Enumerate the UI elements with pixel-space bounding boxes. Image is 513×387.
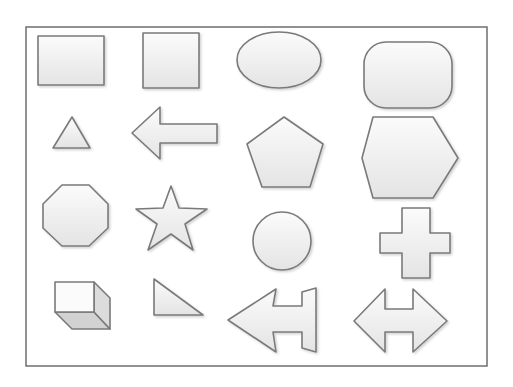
hexagon-shape[interactable]	[362, 117, 458, 198]
star-shape[interactable]	[136, 186, 207, 250]
shapes-diagram	[0, 0, 513, 387]
rounded-rectangle-shape[interactable]	[364, 42, 452, 108]
triangle-shape[interactable]	[53, 117, 90, 148]
pentagon-shape[interactable]	[247, 117, 323, 187]
cube-shape[interactable]	[55, 282, 110, 329]
left-arrow-shape[interactable]	[132, 107, 217, 159]
rectangle-shape[interactable]	[38, 36, 104, 85]
square-shape[interactable]	[143, 33, 199, 88]
left-arrow-with-cap-shape[interactable]	[228, 288, 316, 352]
octagon-shape[interactable]	[43, 185, 108, 246]
circle-shape[interactable]	[253, 212, 311, 270]
right-triangle-shape[interactable]	[154, 279, 203, 315]
cube-front-face	[55, 282, 94, 312]
cross-shape[interactable]	[380, 208, 450, 278]
left-right-arrow-shape[interactable]	[354, 289, 447, 352]
ellipse-shape[interactable]	[237, 32, 321, 88]
